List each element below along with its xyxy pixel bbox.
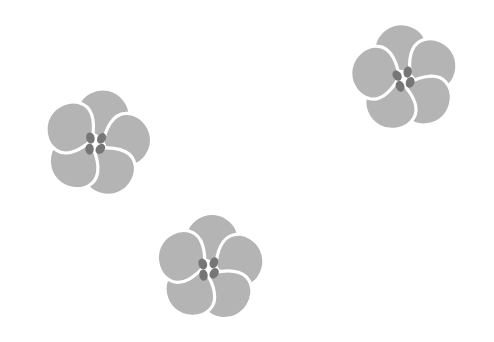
- flower-petal-group: [26, 77, 168, 214]
- flower-bottom-center: [146, 209, 274, 332]
- flower-top-right: [338, 15, 473, 145]
- flower-petal-group: [146, 209, 274, 332]
- flower-petal-group: [338, 15, 473, 145]
- flower-left: [26, 77, 168, 214]
- flower-stamen-dot-3: [85, 143, 93, 154]
- flower-illustration-canvas: [0, 0, 494, 342]
- flower-scene: [0, 0, 494, 342]
